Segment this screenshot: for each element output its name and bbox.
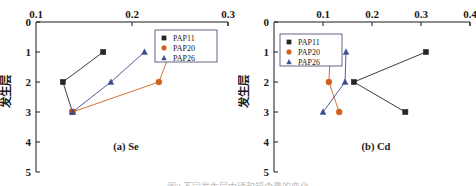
data-point-pap26 <box>142 49 148 55</box>
y-axis-label: 发生层 <box>0 74 13 109</box>
data-point-pap11 <box>351 79 356 84</box>
series-line-pap26 <box>72 52 144 112</box>
chart-svg-se: 0.10.20.3012345发生层(a) SePAP11PAP20PAP26 <box>0 0 238 186</box>
x-tick-label: 0.1 <box>29 8 43 20</box>
bottom-caption-partial: 图3 不同发生层中硒和镉含量的变化 <box>0 180 476 186</box>
y-tick-label: 3 <box>264 106 270 118</box>
x-tick-label: 0.4 <box>463 8 476 20</box>
y-tick-label: 5 <box>26 166 32 178</box>
chart-panel-cd: 0.10.20.30.4012345发生层(b) CdPAP11PAP20PAP… <box>238 0 476 186</box>
x-tick-label: 0.1 <box>316 8 330 20</box>
legend-label-pap11: PAP11 <box>298 38 320 47</box>
panel-caption: (b) Cd <box>362 141 391 153</box>
series-line-pap11 <box>354 52 426 112</box>
chart-panel-se: 0.10.20.3012345发生层(a) SePAP11PAP20PAP26 <box>0 0 238 186</box>
data-point-pap20 <box>156 79 162 85</box>
figure-container: 0.10.20.3012345发生层(a) SePAP11PAP20PAP26 … <box>0 0 476 186</box>
data-point-pap26 <box>342 79 348 85</box>
legend-marker-pap11 <box>162 36 166 40</box>
y-tick-label: 0 <box>264 16 270 28</box>
y-tick-label: 2 <box>26 76 32 88</box>
y-tick-label: 0 <box>26 16 32 28</box>
data-point-pap11 <box>101 49 106 54</box>
y-tick-label: 5 <box>264 166 270 178</box>
data-point-pap20 <box>336 109 342 115</box>
y-tick-label: 1 <box>26 46 32 58</box>
data-point-pap11 <box>423 49 428 54</box>
x-tick-label: 0.3 <box>221 8 235 20</box>
legend-marker-pap11 <box>287 40 291 44</box>
legend-label-pap26: PAP26 <box>173 54 195 63</box>
legend-label-pap26: PAP26 <box>298 58 320 67</box>
legend-label-pap11: PAP11 <box>173 34 195 43</box>
panel-caption: (a) Se <box>113 141 139 153</box>
y-tick-label: 1 <box>264 46 270 58</box>
data-point-pap20 <box>326 79 332 85</box>
x-tick-label: 0.3 <box>414 8 428 20</box>
x-tick-label: 0.2 <box>365 8 379 20</box>
legend-label-pap20: PAP20 <box>173 44 195 53</box>
legend-marker-pap20 <box>287 50 292 55</box>
data-point-pap11 <box>403 109 408 114</box>
x-tick-label: 0.2 <box>125 8 139 20</box>
legend-label-pap20: PAP20 <box>298 48 320 57</box>
data-point-pap11 <box>60 79 65 84</box>
chart-svg-cd: 0.10.20.30.4012345发生层(b) CdPAP11PAP20PAP… <box>238 0 476 186</box>
legend-marker-pap20 <box>162 46 167 51</box>
y-tick-label: 3 <box>26 106 32 118</box>
y-tick-label: 2 <box>264 76 270 88</box>
y-tick-label: 4 <box>264 136 270 148</box>
y-axis-label: 发生层 <box>238 74 251 109</box>
data-point-pap26 <box>343 49 349 55</box>
y-tick-label: 4 <box>26 136 32 148</box>
